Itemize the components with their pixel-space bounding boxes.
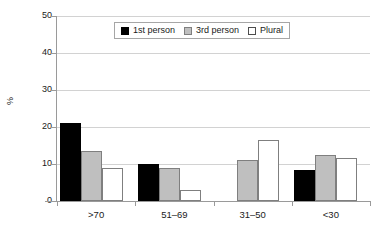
y-axis-tick: 20 — [22, 122, 52, 132]
y-axis-tick: 50 — [22, 11, 52, 21]
bar-group — [214, 16, 292, 201]
bar — [294, 170, 315, 201]
x-axis-tick-mark — [135, 201, 136, 206]
y-axis-tick: 40 — [22, 48, 52, 58]
bar — [60, 123, 81, 201]
plot-area — [57, 16, 370, 201]
y-axis-title: % — [5, 97, 15, 105]
bar — [336, 158, 357, 201]
bar-group — [135, 16, 213, 201]
bar — [81, 151, 102, 201]
x-axis-tick-mark — [214, 201, 215, 206]
legend-item: Plural — [248, 26, 283, 35]
x-axis-tick-label: <30 — [292, 209, 370, 220]
legend-item: 3rd person — [184, 26, 239, 35]
x-axis-tick-mark — [370, 201, 371, 206]
legend-item: 1st person — [121, 26, 175, 35]
y-axis-tick-label: 10 — [30, 159, 52, 168]
legend-label: Plural — [260, 26, 283, 35]
bar-group — [57, 16, 135, 201]
bar — [102, 168, 123, 201]
y-axis-tick-label: 30 — [30, 85, 52, 94]
x-axis-tick-label: >70 — [57, 209, 135, 220]
legend-label: 3rd person — [196, 26, 239, 35]
y-axis-tick-label: 20 — [30, 122, 52, 131]
bar-chart: 01020304050 % >7051–6931–50<30 1st perso… — [0, 0, 386, 231]
bar — [237, 160, 258, 201]
legend-swatch-icon — [248, 27, 256, 35]
y-axis-tick-label: 50 — [30, 11, 52, 20]
x-axis-line — [45, 201, 370, 202]
legend-label: 1st person — [133, 26, 175, 35]
y-axis-tick: 30 — [22, 85, 52, 95]
x-axis-tick-mark — [292, 201, 293, 206]
legend-swatch-icon — [184, 27, 192, 35]
legend-swatch-icon — [121, 27, 129, 35]
bar — [258, 140, 279, 201]
bar — [315, 155, 336, 201]
bar — [138, 164, 159, 201]
bar — [159, 168, 180, 201]
x-axis-tick-label: 51–69 — [135, 209, 213, 220]
x-axis-tick-mark — [57, 201, 58, 206]
x-axis-tick-label: 31–50 — [214, 209, 292, 220]
y-axis-tick: 10 — [22, 159, 52, 169]
chart-legend: 1st person3rd personPlural — [114, 22, 290, 39]
bar — [180, 190, 201, 201]
y-axis-tick-label: 40 — [30, 48, 52, 57]
bar-group — [292, 16, 370, 201]
